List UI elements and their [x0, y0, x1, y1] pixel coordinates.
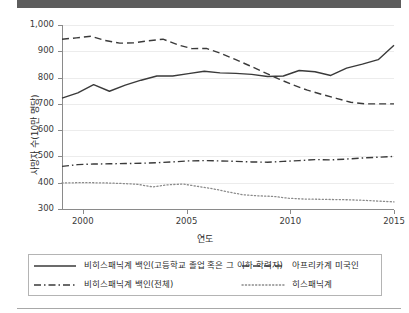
legend-swatch-solid-icon: [33, 261, 77, 271]
x-axis-title: 연도: [0, 232, 409, 245]
legend-label: 아프리카계 미국인: [292, 261, 359, 270]
legend-item[interactable]: 비히스패닉계 백인(전체): [33, 275, 173, 294]
figure-container: 1,000900800700600500400300 2000200520102…: [0, 0, 409, 313]
legend-item[interactable]: 히스패닉계: [241, 275, 332, 294]
legend-box: 비히스패닉계 백인(고등학교 졸업 혹은 그 이하 학력자)아프리카계 미국인비…: [28, 254, 382, 296]
legend-swatch-dashdot-icon: [33, 280, 77, 290]
series-line-2: [62, 156, 394, 166]
data-series-layer: [0, 10, 409, 245]
legend-swatch-dotted-icon: [241, 280, 285, 290]
legend-label: 히스패닉계: [292, 280, 332, 289]
chart-panel: 1,000900800700600500400300 2000200520102…: [0, 10, 409, 245]
legend-swatch-dashed-icon: [241, 261, 285, 271]
series-line-3: [62, 183, 394, 202]
y-axis-title: 사망자 수(10만 명당): [28, 71, 41, 199]
series-line-0: [62, 45, 394, 98]
legend-item[interactable]: 아프리카계 미국인: [241, 256, 359, 275]
y-axis-title-wrapper: 사망자 수(10만 명당): [14, 40, 34, 200]
footer-rule: [17, 308, 401, 309]
legend-label: 비히스패닉계 백인(전체): [84, 280, 173, 289]
series-line-1: [62, 36, 394, 104]
header-bar: [17, 0, 401, 8]
